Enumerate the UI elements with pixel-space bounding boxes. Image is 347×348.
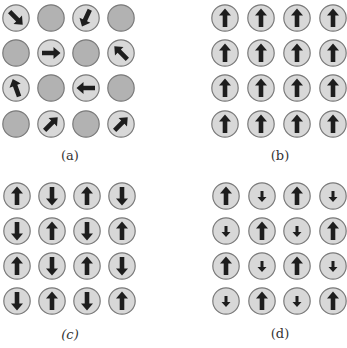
empty-site: [72, 110, 100, 138]
spin-site: [283, 39, 311, 67]
spin-site: [248, 252, 276, 280]
spin-site: [283, 217, 311, 245]
panel-label-b: (b): [271, 148, 289, 163]
spin-site: [3, 182, 31, 210]
spin-site: [212, 182, 240, 210]
spin-site: [3, 287, 31, 315]
spin-site: [319, 74, 347, 102]
spin-site: [108, 287, 136, 315]
spin-site: [319, 217, 347, 245]
spin-site: [73, 217, 101, 245]
spin-site: [72, 4, 100, 32]
spin-site: [247, 4, 275, 32]
spin-site: [108, 217, 136, 245]
spin-site: [283, 74, 311, 102]
spin-site: [319, 182, 347, 210]
spin-site: [212, 252, 240, 280]
panel-label-a: (a): [61, 148, 79, 163]
spin-site: [248, 217, 276, 245]
spin-site: [247, 110, 275, 138]
spin-site: [38, 287, 66, 315]
spin-site: [319, 4, 347, 32]
empty-site: [107, 4, 135, 32]
spin-site: [3, 217, 31, 245]
spin-site: [319, 252, 347, 280]
spin-site: [2, 74, 30, 102]
empty-site: [37, 4, 65, 32]
spin-site: [72, 74, 100, 102]
spin-site: [38, 182, 66, 210]
spin-site: [247, 39, 275, 67]
spin-site: [2, 4, 30, 32]
spin-site: [73, 182, 101, 210]
spin-site: [108, 182, 136, 210]
panel-label-d: (d): [271, 326, 289, 341]
spin-site: [107, 110, 135, 138]
spin-site: [283, 287, 311, 315]
spin-site: [38, 217, 66, 245]
spin-site: [107, 39, 135, 67]
spin-site: [283, 4, 311, 32]
spin-site: [211, 110, 239, 138]
spin-site: [319, 39, 347, 67]
empty-site: [37, 74, 65, 102]
spin-site: [211, 39, 239, 67]
spin-site: [212, 287, 240, 315]
spin-site: [283, 252, 311, 280]
spin-site: [319, 287, 347, 315]
panel-label-c: (c): [61, 327, 78, 342]
spin-site: [73, 252, 101, 280]
spin-site: [211, 74, 239, 102]
spin-site: [37, 39, 65, 67]
spin-site: [211, 4, 239, 32]
empty-site: [107, 74, 135, 102]
empty-site: [72, 39, 100, 67]
spin-site: [3, 252, 31, 280]
spin-site: [283, 110, 311, 138]
spin-site: [38, 252, 66, 280]
spin-site: [37, 110, 65, 138]
spin-site: [319, 110, 347, 138]
empty-site: [2, 110, 30, 138]
spin-site: [247, 74, 275, 102]
spin-site: [248, 287, 276, 315]
spin-site: [73, 287, 101, 315]
spin-site: [248, 182, 276, 210]
spin-site: [108, 252, 136, 280]
spin-site: [212, 217, 240, 245]
empty-site: [2, 39, 30, 67]
spin-site: [283, 182, 311, 210]
